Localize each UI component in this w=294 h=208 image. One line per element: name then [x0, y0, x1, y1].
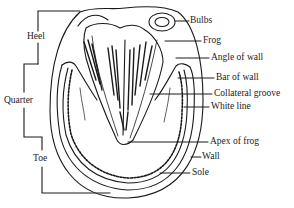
label-wall: Wall — [202, 152, 220, 162]
label-sole: Sole — [192, 168, 209, 178]
label-angle-of-wall: Angle of wall — [211, 53, 263, 63]
label-bar-of-wall: Bar of wall — [216, 73, 259, 83]
label-heel: Heel — [27, 32, 45, 42]
label-bulbs: Bulbs — [190, 16, 212, 26]
label-quarter: Quarter — [4, 96, 33, 106]
label-collateral-groove: Collateral groove — [214, 89, 280, 99]
hoof-diagram: Heel Quarter Toe Bulbs Frog Angle of wal… — [0, 0, 294, 208]
bar-right — [155, 64, 190, 100]
label-frog: Frog — [203, 36, 221, 46]
label-apex-of-frog: Apex of frog — [210, 137, 259, 147]
outer-wall — [50, 7, 203, 198]
label-white-line: White line — [211, 102, 251, 112]
label-toe: Toe — [33, 154, 47, 164]
